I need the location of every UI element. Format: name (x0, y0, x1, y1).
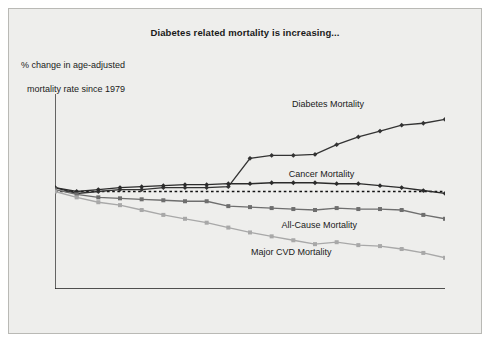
data-point (118, 196, 122, 200)
data-point (399, 185, 404, 190)
data-point (248, 181, 253, 186)
data-point (313, 152, 318, 157)
data-point (399, 123, 404, 128)
data-point (421, 213, 425, 217)
data-point (443, 217, 445, 221)
series-2 (55, 180, 445, 196)
data-point (226, 204, 230, 208)
data-point (291, 238, 295, 242)
plot-area: 50403020100–10–20–30–40–5019801981198219… (55, 94, 445, 289)
data-point (183, 217, 187, 221)
data-point (248, 230, 252, 234)
data-point (313, 208, 317, 212)
data-point (204, 182, 209, 187)
data-point (205, 221, 209, 225)
y-axis-label: % change in age-adjusted mortality rate … (21, 47, 125, 95)
data-point (269, 180, 274, 185)
data-point (183, 199, 187, 203)
data-point (291, 180, 296, 185)
data-point (356, 181, 361, 186)
data-point (291, 207, 295, 211)
data-point (96, 200, 100, 204)
data-point (421, 251, 425, 255)
data-point (400, 208, 404, 212)
data-point (75, 195, 79, 199)
data-point (400, 247, 404, 251)
data-point (443, 256, 445, 260)
data-point (96, 195, 100, 199)
data-point (378, 244, 382, 248)
chart-title: Diabetes related mortality is increasing… (9, 27, 481, 38)
data-point (443, 191, 445, 196)
data-point (55, 190, 57, 194)
y-axis-label-line1: % change in age-adjusted (21, 60, 125, 70)
data-point (269, 153, 274, 158)
data-point (334, 181, 339, 186)
data-point (334, 142, 339, 147)
data-point (183, 182, 188, 187)
data-point (161, 213, 165, 217)
line-chart-svg: 50403020100–10–20–30–40–5019801981198219… (55, 94, 445, 289)
data-point (226, 226, 230, 230)
data-point (378, 207, 382, 211)
data-point (139, 184, 144, 189)
data-point (313, 180, 318, 185)
series-label: Diabetes Mortality (292, 99, 365, 109)
data-point (161, 198, 165, 202)
data-point (378, 129, 383, 134)
data-point (270, 234, 274, 238)
chart-figure: Diabetes related mortality is increasing… (8, 8, 482, 334)
data-point (356, 243, 360, 247)
data-point (378, 183, 383, 188)
data-point (205, 199, 209, 203)
data-point (140, 208, 144, 212)
data-point (335, 240, 339, 244)
data-point (356, 135, 361, 140)
series-label: Major CVD Mortality (251, 247, 332, 257)
data-point (118, 203, 122, 207)
data-point (270, 206, 274, 210)
data-point (248, 205, 252, 209)
data-point (140, 197, 144, 201)
series-label: All-Cause Mortality (282, 220, 358, 230)
data-point (421, 121, 426, 126)
data-point (335, 206, 339, 210)
data-point (356, 207, 360, 211)
series-label: Cancer Mortality (289, 169, 355, 179)
data-point (443, 117, 445, 122)
data-point (291, 153, 296, 158)
data-point (313, 242, 317, 246)
